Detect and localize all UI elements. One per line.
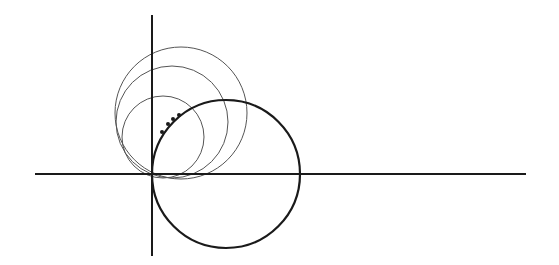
arc-point-2 <box>166 122 170 126</box>
arc-point-1 <box>160 130 164 134</box>
arc-point-4 <box>177 113 181 117</box>
diagram-canvas <box>0 0 559 265</box>
arc-point-3 <box>171 117 175 121</box>
diagram-figure <box>0 0 559 265</box>
thin-circles-group <box>115 47 247 179</box>
